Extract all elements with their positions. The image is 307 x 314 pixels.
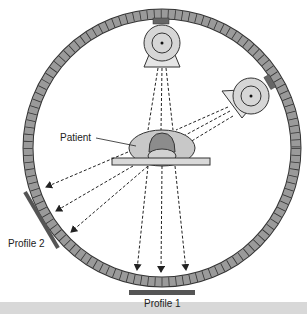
patient-leader-line	[96, 138, 136, 146]
profile-1-bar	[129, 290, 195, 295]
patient-table	[112, 158, 210, 165]
patient-label: Patient	[60, 132, 91, 143]
xray-tube-top	[144, 18, 180, 67]
beams-top	[148, 68, 173, 130]
ct-scanner-diagram: Patient Profile 2 Profile 1	[0, 0, 307, 314]
profile-2-label: Profile 2	[8, 238, 45, 249]
beams-to-profile-1	[137, 166, 186, 272]
profile-1-label: Profile 1	[144, 298, 181, 309]
